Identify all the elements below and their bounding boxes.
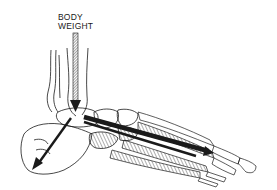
- heel-force-arrow: [32, 118, 71, 170]
- body-weight-label: BODY WEIGHT: [58, 13, 93, 31]
- body-weight-label-line2: WEIGHT: [58, 22, 93, 31]
- calcaneus-bone: [21, 123, 92, 174]
- fibula-bone: [47, 50, 60, 112]
- foot-skeleton-diagram: [0, 0, 277, 190]
- body-weight-arrow: [70, 33, 81, 112]
